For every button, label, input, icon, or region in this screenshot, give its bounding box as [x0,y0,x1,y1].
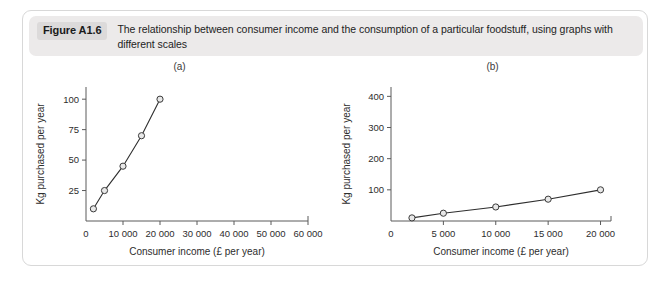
chart-a-plot: 255075100010 00020 00030 00040 00050 000… [23,59,336,265]
svg-b-xtick-label: 15 000 [534,228,563,239]
svg-a-xlabel: Consumer income (£ per year) [129,246,265,257]
svg-a-data-point [138,133,144,139]
svg-a-xtick-label: 10 000 [108,228,137,239]
svg-b-ytick-label: 100 [368,184,384,195]
svg-b-xtick-label: 10 000 [481,228,510,239]
svg-b-ylabel: Kg purchased per year [341,103,352,205]
svg-b-xlabel: Consumer income (£ per year) [433,246,569,257]
svg-b-data-point [545,196,551,202]
chart-b: (b) 10020030040005 00010 00015 00020 000… [336,59,649,265]
svg-b-ytick-label: 400 [368,91,384,102]
svg-a-xtick-label: 50 000 [256,228,285,239]
svg-b-data-point [409,215,415,221]
figure-caption-text: The relationship between consumer income… [117,22,633,51]
svg-a-ytick-label: 25 [68,185,79,196]
svg-a-data-point [157,96,163,102]
svg-a-ytick-label: 50 [68,154,79,165]
svg-b-ytick-label: 300 [368,122,384,133]
svg-a-ylabel: Kg purchased per year [35,103,46,205]
svg-a-data-point [101,187,107,193]
charts-area: (a) 255075100010 00020 00030 00040 00050… [23,59,649,265]
svg-b-xtick-label: 5 000 [431,228,455,239]
svg-a-ytick-label: 100 [63,94,79,105]
svg-b-xtick-label: 20 000 [586,228,615,239]
svg-b-ytick-label: 200 [368,153,384,164]
svg-b-data-point [493,204,499,210]
svg-b-data-point [597,187,603,193]
chart-a: (a) 255075100010 00020 00030 00040 00050… [23,59,336,265]
svg-a-ytick-label: 75 [68,124,79,135]
svg-b-data-point [440,210,446,216]
figure-number-badge: Figure A1.6 [37,22,107,40]
svg-a-xtick-label: 30 000 [182,228,211,239]
svg-a-xtick-label: 0 [83,228,88,239]
figure-panel: Figure A1.6 The relationship between con… [22,10,648,266]
figure-caption-bar: Figure A1.6 The relationship between con… [29,16,643,56]
svg-a-xtick-label: 40 000 [219,228,248,239]
svg-a-xtick-label: 20 000 [145,228,174,239]
svg-b-xtick-label: 0 [388,228,393,239]
svg-a-xtick-label: 60 000 [293,228,322,239]
svg-a-data-point [90,206,96,212]
svg-a-data-point [120,163,126,169]
chart-b-plot: 10020030040005 00010 00015 00020 000Cons… [336,59,649,265]
